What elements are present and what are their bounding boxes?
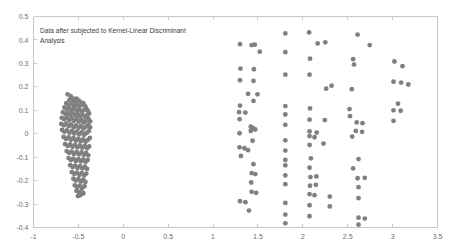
data-point xyxy=(283,221,288,226)
data-point xyxy=(347,107,352,112)
data-points-layer xyxy=(59,30,411,227)
data-point xyxy=(283,31,288,36)
data-point xyxy=(356,157,361,162)
data-point xyxy=(238,42,243,47)
data-point xyxy=(255,92,260,97)
data-point xyxy=(356,185,361,190)
data-point xyxy=(283,212,288,217)
data-point xyxy=(250,138,255,143)
data-point xyxy=(327,194,332,199)
data-point xyxy=(307,134,312,139)
data-point xyxy=(307,72,312,77)
data-point xyxy=(85,158,90,163)
y-tick-label: -0.4 xyxy=(16,224,28,231)
data-point xyxy=(243,200,248,205)
data-point xyxy=(283,104,288,109)
data-point xyxy=(86,129,91,134)
data-point xyxy=(314,174,319,179)
data-point xyxy=(355,32,360,37)
data-point xyxy=(356,222,361,227)
data-point xyxy=(283,122,288,127)
data-point xyxy=(86,153,91,158)
y-tick-label: 0.3 xyxy=(19,60,29,67)
data-point xyxy=(238,154,243,159)
data-point xyxy=(356,215,361,220)
data-point xyxy=(351,57,356,62)
data-point xyxy=(308,175,313,180)
data-point xyxy=(352,62,357,67)
data-point xyxy=(307,203,312,208)
data-point xyxy=(307,30,312,35)
data-point xyxy=(314,130,319,135)
data-point xyxy=(400,64,405,69)
data-point xyxy=(238,78,243,83)
x-tick-label: -1 xyxy=(30,233,36,240)
data-point xyxy=(354,120,359,125)
data-point xyxy=(283,200,288,205)
data-point xyxy=(308,106,313,111)
annotation-layer: Data after subjected to Kernel-Linear Di… xyxy=(40,27,186,45)
data-point xyxy=(356,196,361,201)
data-point xyxy=(351,166,356,171)
y-axis-ticks xyxy=(34,17,38,228)
series-class-2-sparse-cluster xyxy=(237,30,411,227)
data-point xyxy=(406,82,411,87)
data-point xyxy=(253,127,258,132)
data-point xyxy=(355,176,360,181)
data-point xyxy=(246,91,251,96)
data-point xyxy=(323,40,328,45)
data-point xyxy=(315,41,320,46)
data-point xyxy=(283,173,288,178)
data-point xyxy=(307,129,312,134)
data-point xyxy=(254,190,259,195)
data-point xyxy=(283,158,288,163)
data-point xyxy=(283,163,288,168)
x-tick-label: 0 xyxy=(121,233,125,240)
y-tick-label: 0.2 xyxy=(19,83,29,90)
data-point xyxy=(362,175,367,180)
data-point xyxy=(238,66,243,71)
x-tick-label: 3.5 xyxy=(433,233,443,240)
data-point xyxy=(283,112,288,117)
data-point xyxy=(324,86,329,91)
data-point xyxy=(392,59,397,64)
data-point xyxy=(391,118,396,123)
annotation-line-1: Data after subjected to Kernel-Linear Di… xyxy=(40,27,186,35)
data-point xyxy=(367,43,372,48)
data-point xyxy=(391,79,396,84)
data-point xyxy=(309,156,314,161)
data-point xyxy=(327,204,332,209)
data-point xyxy=(249,189,254,194)
y-axis-tick-labels: -0.4-0.3-0.2-0.100.10.20.30.40.5 xyxy=(16,13,28,231)
x-tick-label: 3 xyxy=(391,233,395,240)
data-point xyxy=(238,103,243,108)
data-point xyxy=(237,145,242,150)
data-point xyxy=(283,138,288,143)
data-point xyxy=(307,143,312,148)
data-point xyxy=(391,108,396,113)
x-tick-label: 2 xyxy=(301,233,305,240)
x-axis-ticks xyxy=(34,17,438,228)
data-point xyxy=(307,214,312,219)
data-point xyxy=(251,162,256,167)
data-point xyxy=(87,136,92,141)
data-point xyxy=(362,216,367,221)
data-point xyxy=(312,135,317,140)
y-tick-label: -0.3 xyxy=(16,201,28,208)
data-point xyxy=(399,80,404,85)
data-point xyxy=(360,129,365,134)
data-point xyxy=(257,49,262,54)
data-point xyxy=(312,193,317,198)
series-class-1-dense-cluster xyxy=(59,92,93,199)
scatter-plot-figure: -1-0.500.511.522.533.5 -0.4-0.3-0.2-0.10… xyxy=(0,0,459,250)
x-tick-label: 2.5 xyxy=(343,233,353,240)
data-point xyxy=(249,180,254,185)
data-point xyxy=(85,166,90,171)
data-point xyxy=(252,67,257,72)
data-point xyxy=(253,172,258,177)
data-point xyxy=(252,42,257,47)
data-point xyxy=(360,121,365,126)
x-tick-label: -0.5 xyxy=(72,233,84,240)
data-point xyxy=(348,114,353,119)
data-point xyxy=(237,131,242,136)
